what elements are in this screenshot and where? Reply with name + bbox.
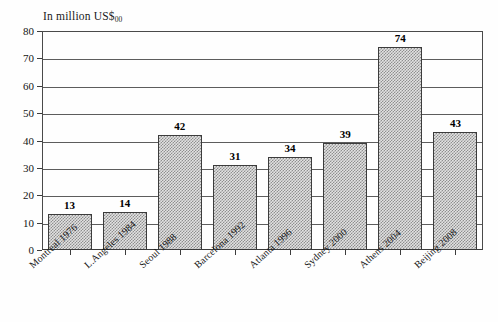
x-axis-tick-2 [180, 250, 181, 255]
bar-value-39: 39 [311, 128, 379, 140]
y-axis-label-50: 50 [8, 107, 34, 119]
bar-athens-2004 [378, 47, 422, 250]
x-axis-tick-3 [235, 250, 236, 255]
y-axis-unit-title-subscript: 00 [115, 15, 123, 24]
y-axis-label-80: 80 [8, 25, 34, 37]
y-axis-unit-title: In million US$00 [43, 10, 122, 24]
y-axis-label-0: 0 [8, 244, 34, 256]
x-axis-tick-5 [345, 250, 346, 255]
bar-chart-figure: In million US$00 01020304050607080 13144… [0, 0, 498, 322]
y-axis-label-60: 60 [8, 80, 34, 92]
bar-series [42, 31, 483, 250]
y-axis-label-30: 30 [8, 162, 34, 174]
x-axis-tick-0 [70, 250, 71, 255]
x-axis-tick-1 [125, 250, 126, 255]
bar-value-74: 74 [366, 32, 434, 44]
x-axis-tick-4 [290, 250, 291, 255]
bar-value-34: 34 [256, 142, 324, 154]
y-axis-label-70: 70 [8, 52, 34, 64]
y-axis-label-10: 10 [8, 217, 34, 229]
bar-value-14: 14 [91, 197, 159, 209]
bar-value-42: 42 [146, 120, 214, 132]
x-axis-tick-7 [455, 250, 456, 255]
bar-seoul-1988 [158, 135, 202, 250]
bar-value-43: 43 [421, 117, 489, 129]
y-axis-label-20: 20 [8, 189, 34, 201]
x-axis-tick-6 [400, 250, 401, 255]
y-axis-unit-title-text: In million US$ [43, 10, 115, 22]
y-axis-label-40: 40 [8, 135, 34, 147]
